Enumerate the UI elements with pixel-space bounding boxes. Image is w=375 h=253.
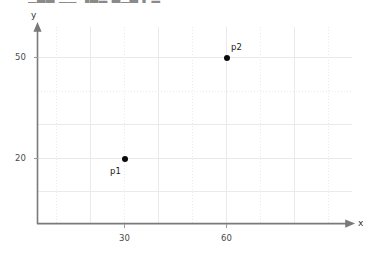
- chart-canvas: ▁▃▄ ▁▁ ▚▃▂ ▃▁▃ ▍▂: [0, 0, 375, 253]
- data-point-label-p2: p2: [231, 42, 242, 52]
- y-tick-label-20: 20: [15, 153, 26, 163]
- grid-lines-horizontal: [38, 58, 352, 192]
- y-axis-label: y: [31, 10, 36, 20]
- x-axis-line: [37, 221, 353, 227]
- y-tick-label-50: 50: [15, 52, 26, 62]
- data-point-label-p1: p1: [110, 166, 121, 176]
- x-tick-label-30: 30: [119, 233, 130, 243]
- x-axis-ticks: [125, 224, 227, 228]
- plot-graphics: [0, 0, 375, 253]
- x-tick-label-60: 60: [221, 233, 232, 243]
- data-point-p2[interactable]: [224, 55, 230, 61]
- data-point-p1[interactable]: [122, 156, 128, 162]
- x-axis-label: x: [358, 218, 363, 228]
